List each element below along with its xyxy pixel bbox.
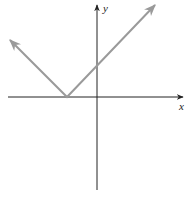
x-axis-label: x bbox=[178, 100, 184, 112]
y-axis-label: y bbox=[102, 2, 108, 14]
graph-canvas: y x bbox=[0, 0, 196, 201]
absolute-value-curve bbox=[10, 5, 155, 97]
